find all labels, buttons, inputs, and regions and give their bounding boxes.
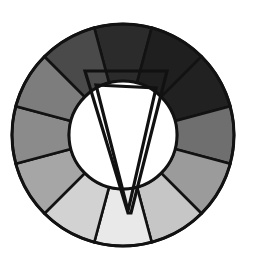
color-wheel-svg[interactable] <box>0 0 255 265</box>
color-wheel-canvas <box>0 0 255 265</box>
